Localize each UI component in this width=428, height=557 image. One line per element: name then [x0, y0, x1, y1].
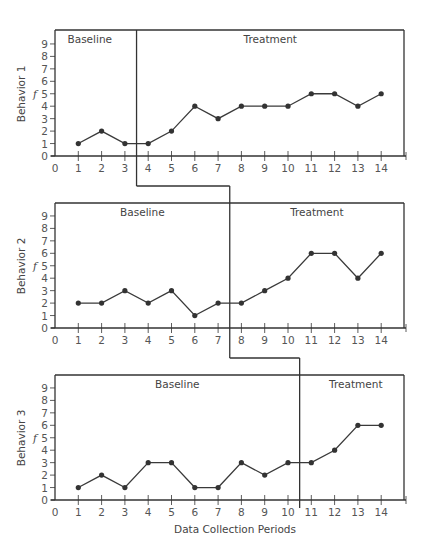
data-point: [285, 276, 290, 281]
data-point: [285, 104, 290, 109]
data-point: [309, 460, 314, 465]
data-point: [262, 473, 267, 478]
x-tick-label: 7: [215, 506, 222, 518]
y-tick-label: 5: [41, 88, 48, 100]
x-tick-label: 1: [75, 506, 82, 518]
data-point: [76, 301, 81, 306]
x-tick-label: 12: [328, 506, 341, 518]
y-tick-label: 3: [41, 285, 48, 297]
y-tick-label: 4: [41, 100, 48, 112]
data-point: [99, 473, 104, 478]
x-tick-label: 13: [351, 162, 364, 174]
x-axis-title: Data Collection Periods: [174, 523, 296, 535]
y-tick-label: 9: [41, 210, 48, 222]
panels: 012345678901234567891011121314Behavior 1…: [15, 30, 406, 518]
x-tick-label: 7: [215, 162, 222, 174]
data-point: [332, 448, 337, 453]
x-tick-label: 6: [191, 506, 198, 518]
x-tick-label: 0: [52, 506, 59, 518]
x-tick-label: 3: [122, 506, 129, 518]
treatment-label: Treatment: [328, 378, 382, 390]
data-point: [76, 141, 81, 146]
y-tick-label: 0: [41, 322, 48, 334]
data-point: [192, 104, 197, 109]
data-point: [122, 141, 127, 146]
y-axis-frequency-symbol: f: [32, 88, 39, 100]
x-tick-label: 11: [305, 162, 318, 174]
data-point: [379, 91, 384, 96]
y-tick-label: 9: [41, 382, 48, 394]
x-tick-label: 11: [305, 506, 318, 518]
x-tick-label: 10: [281, 334, 294, 346]
x-tick-label: 8: [238, 506, 245, 518]
x-tick-label: 4: [145, 162, 152, 174]
x-tick-label: 0: [52, 162, 59, 174]
y-tick-label: 1: [41, 482, 48, 494]
y-tick-label: 7: [41, 407, 48, 419]
y-tick-label: 3: [41, 457, 48, 469]
x-tick-label: 9: [261, 506, 268, 518]
y-tick-label: 5: [41, 260, 48, 272]
data-point: [99, 129, 104, 134]
x-tick-label: 2: [98, 162, 105, 174]
y-axis-title: Behavior 2: [15, 238, 27, 295]
x-tick-label: 5: [168, 506, 175, 518]
x-tick-label: 8: [238, 334, 245, 346]
data-point: [239, 301, 244, 306]
y-tick-label: 2: [41, 297, 48, 309]
x-tick-label: 3: [122, 334, 129, 346]
y-axis-frequency-symbol: f: [32, 432, 39, 444]
data-point: [309, 251, 314, 256]
data-point: [122, 288, 127, 293]
x-tick-label: 3: [122, 162, 129, 174]
y-tick-label: 1: [41, 138, 48, 150]
y-tick-label: 8: [41, 222, 48, 234]
x-tick-label: 4: [145, 506, 152, 518]
y-tick-label: 9: [41, 38, 48, 50]
y-tick-label: 4: [41, 272, 48, 284]
data-point: [146, 141, 151, 146]
data-point: [169, 460, 174, 465]
data-point: [332, 91, 337, 96]
x-tick-label: 1: [75, 334, 82, 346]
data-point: [76, 485, 81, 490]
y-tick-label: 1: [41, 310, 48, 322]
data-point: [379, 423, 384, 428]
data-point: [262, 288, 267, 293]
x-tick-label: 10: [281, 162, 294, 174]
data-point: [99, 301, 104, 306]
multiple-baseline-chart: 012345678901234567891011121314Behavior 1…: [0, 0, 428, 557]
data-point: [239, 104, 244, 109]
x-tick-label: 8: [238, 162, 245, 174]
y-tick-label: 4: [41, 444, 48, 456]
y-tick-label: 7: [41, 63, 48, 75]
x-tick-label: 14: [375, 162, 389, 174]
y-tick-label: 8: [41, 50, 48, 62]
data-point: [355, 104, 360, 109]
data-point: [146, 301, 151, 306]
x-tick-label: 5: [168, 162, 175, 174]
data-point: [216, 485, 221, 490]
data-point: [285, 460, 290, 465]
y-tick-label: 8: [41, 394, 48, 406]
data-point: [122, 485, 127, 490]
x-tick-label: 13: [351, 506, 364, 518]
baseline-label: Baseline: [120, 206, 165, 218]
x-tick-label: 12: [328, 162, 341, 174]
y-tick-label: 0: [41, 150, 48, 162]
x-tick-label: 7: [215, 334, 222, 346]
x-tick-label: 2: [98, 506, 105, 518]
treatment-label: Treatment: [243, 33, 297, 45]
panel-1: 012345678901234567891011121314Behavior 1…: [15, 30, 406, 174]
x-tick-label: 10: [281, 506, 294, 518]
y-tick-label: 2: [41, 469, 48, 481]
data-point: [192, 485, 197, 490]
x-tick-label: 9: [261, 334, 268, 346]
data-point: [309, 91, 314, 96]
x-tick-label: 9: [261, 162, 268, 174]
treatment-label: Treatment: [289, 206, 343, 218]
x-tick-label: 11: [305, 334, 318, 346]
y-axis-title: Behavior 1: [15, 66, 27, 123]
data-point: [355, 276, 360, 281]
panel-3: 012345678901234567891011121314Behavior 3…: [15, 375, 406, 518]
